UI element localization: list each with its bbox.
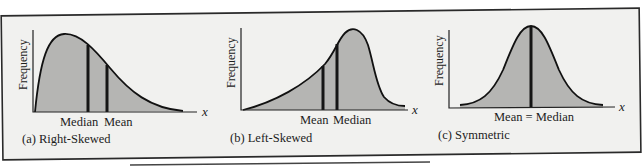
x-axis-label: x [201,104,208,119]
median-label: Median [333,113,372,127]
caption: (c) Symmetric [438,128,510,142]
y-axis-label: Frequency [432,35,446,86]
x-axis-label: x [618,99,625,114]
caption: (a) Right-Skewed [22,132,111,146]
skewness-figure: x Frequency Median Mean (a) Right-Skewed… [0,0,643,167]
bottom-rule [130,162,430,165]
y-axis-label: Frequency [224,37,238,88]
mean-label: Mean [300,113,329,127]
x-axis-label: x [411,102,418,117]
median-label: Median [60,115,99,129]
y-axis-label: Frequency [16,39,30,90]
mean-median-label: Mean = Median [494,110,575,124]
caption: (b) Left-Skewed [230,131,313,145]
mean-label: Mean [104,115,133,129]
